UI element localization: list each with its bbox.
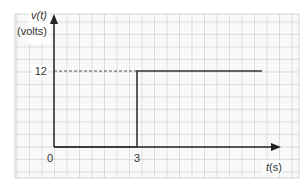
- tick-label-3: 3: [134, 152, 140, 164]
- y-axis-label-var: v(t): [31, 9, 47, 21]
- y-axis-label-unit: (volts): [17, 25, 47, 37]
- tick-label-12: 12: [35, 65, 47, 77]
- step-voltage-diagram: v(t) (volts) 12 0 3 t(s): [0, 0, 308, 193]
- x-axis-label: t(s): [266, 161, 282, 173]
- tick-label-0: 0: [47, 152, 53, 164]
- graph-paper-grid: [15, 14, 299, 178]
